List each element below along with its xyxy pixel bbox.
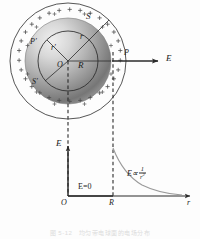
- series-inverse-square-curve: [113, 148, 182, 195]
- label-radius-R: R: [78, 61, 84, 70]
- label-E-equals-zero: E=0: [78, 183, 91, 191]
- label-axis-E: E: [56, 139, 62, 148]
- figure-container: S S′ P′ r′ r O R P E E E=0 O R r E∝ 1 r2…: [0, 0, 200, 239]
- annotation-inverse-square: E∝ 1 r2: [127, 166, 146, 181]
- annotation-fraction: 1 r2: [139, 166, 146, 181]
- label-radius-r-prime: r′: [51, 44, 56, 52]
- label-point-P: P: [124, 49, 129, 57]
- annotation-prop-lead: E∝: [127, 169, 138, 178]
- annotation-denominator: r2: [139, 173, 146, 181]
- label-axis-r: r: [187, 199, 190, 207]
- label-axis-tick-R: R: [109, 199, 114, 207]
- label-field-E: E: [166, 54, 172, 63]
- label-radius-r: r: [80, 33, 83, 41]
- denominator-exponent: 2: [142, 172, 144, 177]
- figure-caption: 图 5-12 均匀带电球面的电场分布: [0, 228, 200, 239]
- physics-figure-svg: [0, 0, 200, 239]
- label-gaussian-surface-S: S: [86, 12, 91, 21]
- label-axis-origin-O: O: [61, 199, 67, 207]
- label-point-P-prime: P′: [30, 38, 37, 46]
- label-center-O: O: [57, 61, 63, 69]
- label-gaussian-surface-S-prime: S′: [32, 78, 38, 86]
